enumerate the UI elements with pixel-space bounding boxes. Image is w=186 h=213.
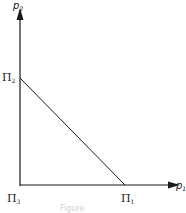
pi1-main: Π	[121, 192, 131, 205]
point-pi1-label: Π1	[121, 193, 134, 207]
y-axis-label: p2	[13, 0, 23, 14]
pi1-sub: 1	[131, 198, 135, 205]
diagram-canvas	[0, 0, 186, 213]
x-axis-label: p1	[176, 180, 186, 194]
pi2-sub: 2	[12, 77, 16, 84]
y-axis	[17, 8, 24, 186]
figure-caption: Figure	[60, 204, 84, 213]
x-axis-label-sub: 1	[182, 185, 186, 192]
x-axis	[20, 182, 180, 189]
point-pi2-label: Π2	[2, 72, 15, 86]
point-pi3-label: Π3	[7, 193, 20, 207]
pi3-main: Π	[7, 192, 17, 205]
pi3-sub: 3	[17, 198, 21, 205]
y-axis-label-sub: 2	[19, 5, 23, 12]
budget-line	[20, 78, 125, 185]
pi2-main: Π	[2, 71, 12, 84]
